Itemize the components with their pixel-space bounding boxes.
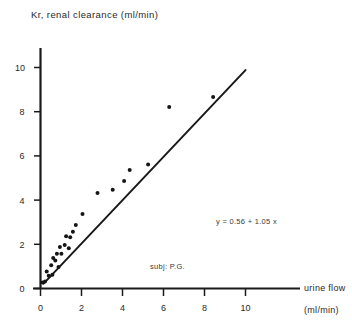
data-point [128, 168, 132, 172]
data-point [58, 245, 62, 249]
data-point [96, 191, 100, 195]
data-point [63, 243, 67, 247]
x-axis-tick-labels: 0 2 4 6 8 10 [38, 303, 251, 313]
data-point [111, 188, 115, 192]
data-point [81, 212, 85, 216]
data-point [74, 223, 78, 227]
data-point [67, 246, 71, 250]
y-tick-label: 8 [19, 107, 24, 117]
x-tick-label: 4 [120, 303, 125, 313]
data-point [43, 279, 47, 283]
scatter-plot: Kr, renal clearance (ml/min) 0 2 4 6 8 1… [0, 0, 352, 333]
data-point [71, 230, 75, 234]
data-point [47, 274, 51, 278]
x-tick-label: 0 [38, 303, 43, 313]
data-point [55, 252, 59, 256]
data-point [45, 269, 49, 273]
x-axis-label: urine flow [304, 283, 346, 293]
data-points [41, 95, 216, 285]
data-point [49, 263, 53, 267]
y-tick-label: 10 [15, 63, 25, 73]
data-point [57, 265, 61, 269]
x-tick-label: 10 [240, 303, 250, 313]
data-point [122, 179, 126, 183]
x-tick-label: 2 [79, 303, 84, 313]
y-tick-label: 0 [19, 284, 24, 294]
x-axis-units-label: (ml/min) [304, 305, 339, 315]
data-point [64, 234, 68, 238]
equation-annotation: y = 0.56 + 1.05 x [216, 217, 277, 226]
data-point [50, 273, 54, 277]
data-point [211, 95, 215, 99]
y-tick-label: 2 [19, 240, 24, 250]
subject-annotation: subj: P.G. [150, 262, 185, 271]
x-axis-ticks [41, 289, 246, 296]
data-point [53, 258, 57, 262]
y-tick-label: 6 [19, 151, 24, 161]
data-point [59, 252, 63, 256]
data-point [146, 162, 150, 166]
x-tick-label: 6 [161, 303, 166, 313]
x-tick-label: 8 [202, 303, 207, 313]
y-axis-tick-labels: 0 2 4 6 8 10 [15, 63, 25, 294]
data-point [68, 235, 72, 239]
chart-figure: Kr, renal clearance (ml/min) 0 2 4 6 8 1… [0, 0, 352, 333]
y-tick-label: 4 [19, 196, 24, 206]
chart-title: Kr, renal clearance (ml/min) [31, 9, 158, 20]
data-point [167, 105, 171, 109]
regression-line [44, 70, 246, 284]
